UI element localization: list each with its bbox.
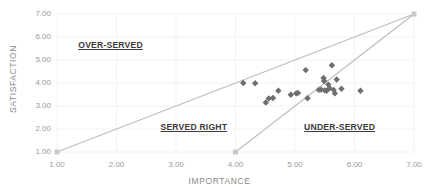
y-axis-title: SATISFACTION	[8, 34, 18, 124]
x-tick-label: 4.00	[216, 160, 256, 169]
y-tick-label: 5.00	[21, 55, 51, 64]
quadrant-label-served-right: SERVED RIGHT	[160, 122, 227, 132]
y-tick-label: 2.00	[21, 124, 51, 133]
data-point	[333, 76, 339, 82]
quadrant-label-over-served: OVER-SERVED	[78, 40, 143, 50]
data-point	[357, 88, 363, 94]
x-tick-label: 3.00	[156, 160, 196, 169]
x-tick-label: 1.00	[37, 160, 77, 169]
x-tick-label: 2.00	[97, 160, 137, 169]
data-point	[303, 67, 309, 73]
data-point	[304, 95, 310, 101]
y-tick-label: 7.00	[21, 9, 51, 18]
y-tick-label: 4.00	[21, 78, 51, 87]
x-axis-title: IMPORTANCE	[0, 176, 439, 186]
data-point	[329, 62, 335, 68]
y-tick-label: 1.00	[21, 147, 51, 156]
data-point	[252, 80, 258, 86]
data-point	[275, 88, 281, 94]
x-tick-label: 7.00	[394, 160, 434, 169]
reference-endpoint-marker	[55, 150, 60, 155]
x-tick-label: 6.00	[335, 160, 375, 169]
reference-endpoint-marker	[233, 150, 238, 155]
y-tick-label: 3.00	[21, 101, 51, 110]
y-tick-label: 6.00	[21, 32, 51, 41]
data-points	[240, 62, 364, 106]
data-point	[338, 86, 344, 92]
x-tick-label: 5.00	[275, 160, 315, 169]
reference-endpoint-marker	[412, 12, 417, 17]
scatter-chart: 1.002.003.004.005.006.007.00 1.002.003.0…	[0, 0, 439, 191]
quadrant-label-under-served: UNDER-SERVED	[304, 122, 375, 132]
data-point	[270, 95, 276, 101]
data-point	[288, 92, 294, 98]
